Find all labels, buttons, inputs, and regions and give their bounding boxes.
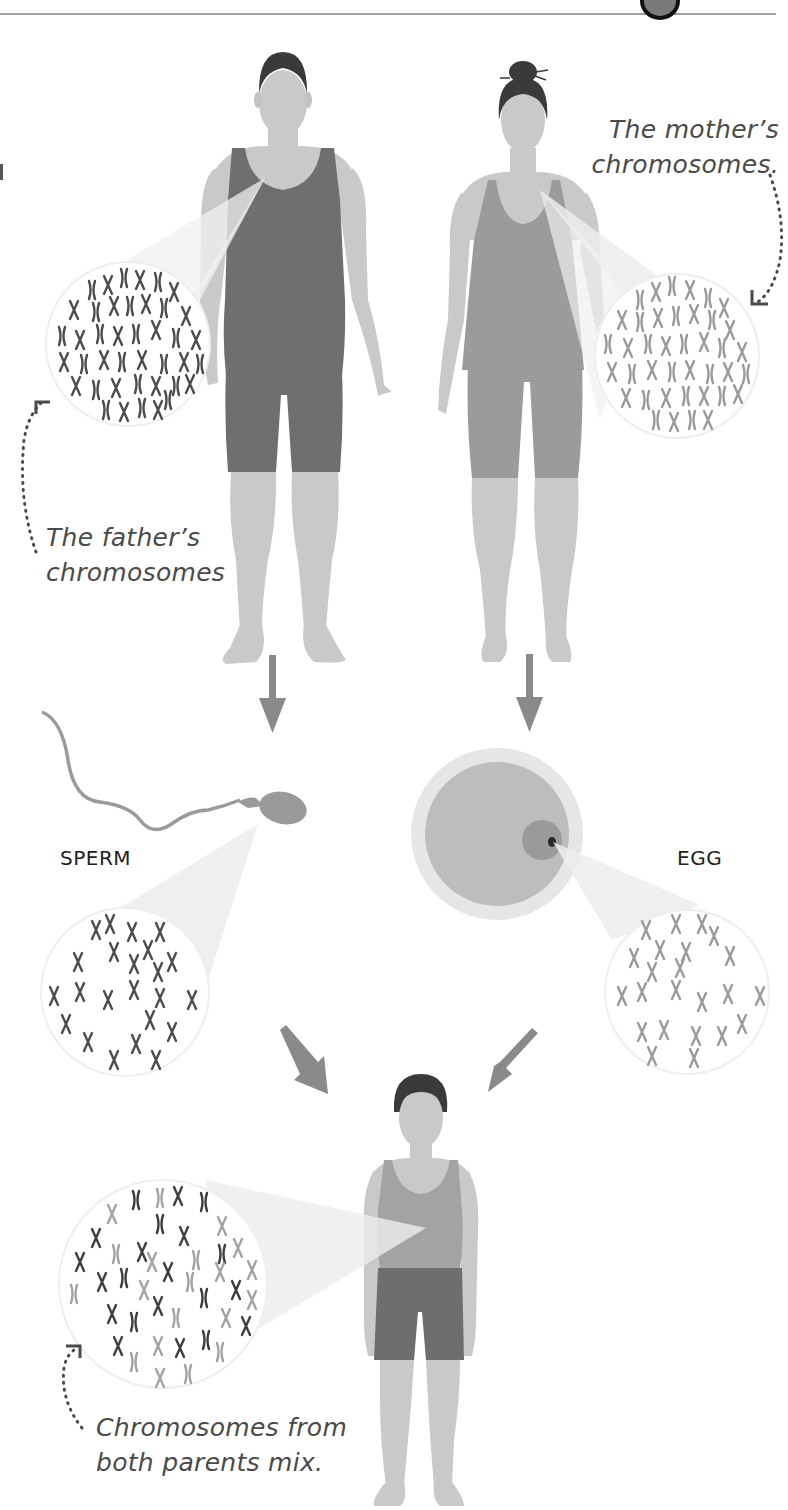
sperm-to-child-arrow: [280, 1025, 328, 1094]
egg-to-child-arrow: [488, 1028, 538, 1092]
egg-nucleus: [522, 820, 562, 860]
illustration: [0, 0, 788, 1510]
child-dotted-arrow: [63, 1350, 82, 1428]
child-chromosome-circle: [59, 1180, 267, 1388]
egg-chromosome-circle: [605, 910, 769, 1074]
sperm-label: SPERM: [60, 846, 131, 870]
egg-label: EGG: [677, 846, 722, 870]
mother-dotted-arrow: [758, 175, 782, 302]
sperm-chromosome-circle: [41, 908, 209, 1076]
down-arrows: [259, 654, 543, 733]
mother-caption: The mother’s chromosomes.: [583, 112, 779, 182]
mother-figure: [438, 61, 604, 662]
mix-caption: Chromosomes from both parents mix.: [96, 1410, 347, 1480]
father-to-sperm-arrow: [269, 655, 276, 700]
egg-nucleolus: [548, 837, 556, 847]
mother-to-egg-arrow: [526, 654, 533, 699]
father-arrow-head-icon: [36, 402, 50, 414]
child-figure: [364, 1074, 479, 1506]
mix-caption-line2: both parents mix.: [96, 1445, 347, 1480]
mother-caption-line1: The mother’s: [583, 112, 779, 147]
egg-cell: [411, 748, 583, 920]
father-figure: [200, 52, 392, 664]
father-caption-line2: chromosomes: [46, 555, 225, 590]
father-caption: The father’s chromosomes: [46, 520, 225, 590]
mother-caption-line2: chromosomes.: [583, 147, 779, 182]
father-caption-line1: The father’s: [46, 520, 225, 555]
father-dotted-arrow: [23, 402, 43, 552]
mix-caption-line1: Chromosomes from: [96, 1410, 347, 1445]
sperm-cell: [42, 712, 310, 829]
